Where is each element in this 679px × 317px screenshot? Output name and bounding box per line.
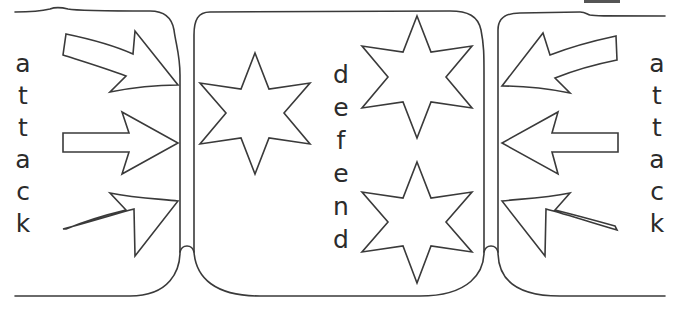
letter: e [333, 157, 348, 190]
letter: c [650, 176, 664, 208]
letter: e [333, 91, 348, 124]
letter: f [337, 124, 346, 157]
arrow-middle-left [63, 112, 178, 174]
right-neck [484, 246, 498, 252]
star-left [200, 53, 310, 174]
letter: t [652, 80, 662, 112]
letter: t [18, 80, 28, 112]
arrow-upper-left [63, 31, 178, 92]
word-attack-left: a t t a c k [12, 48, 34, 240]
letter: a [649, 48, 664, 80]
letter: k [650, 208, 664, 240]
letter: k [16, 208, 30, 240]
word-defend: d e f e n d [329, 58, 353, 256]
arrow-lower-right [502, 193, 617, 256]
left-neck [180, 246, 194, 252]
letter: d [333, 58, 349, 91]
arrow-upper-right [502, 33, 617, 93]
star-bottom-right [362, 162, 472, 283]
star-top-right [362, 16, 472, 138]
arrow-middle-right [502, 112, 618, 174]
letter: d [333, 223, 349, 256]
letter: n [333, 190, 349, 223]
letter: a [15, 144, 30, 176]
letter: t [18, 112, 28, 144]
letter: c [16, 176, 30, 208]
letter: t [652, 112, 662, 144]
letter: a [15, 48, 30, 80]
letter: a [649, 144, 664, 176]
arrow-lower-left [63, 193, 178, 256]
word-attack-right: a t t a c k [646, 48, 668, 240]
